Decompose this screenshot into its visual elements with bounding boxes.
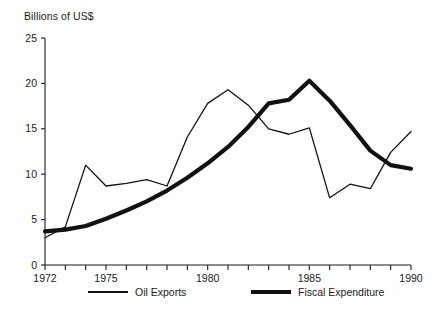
legend-swatch-oil-exports-icon <box>88 291 128 292</box>
svg-text:1990: 1990 <box>399 272 423 284</box>
legend-label-fiscal-expenditure: Fiscal Expenditure <box>298 286 384 298</box>
svg-text:1972: 1972 <box>33 272 57 284</box>
svg-text:1975: 1975 <box>94 272 118 284</box>
legend-swatch-fiscal-expenditure-icon <box>251 290 291 294</box>
line-chart-plot: 0510152025 19721975198019851990 <box>0 0 438 315</box>
legend-item-oil-exports: Oil Exports <box>88 286 186 298</box>
chart-legend: Oil Exports Fiscal Expenditure <box>0 286 438 306</box>
legend-label-oil-exports: Oil Exports <box>135 286 186 298</box>
svg-text:25: 25 <box>25 32 37 44</box>
svg-text:20: 20 <box>25 77 37 89</box>
series-line-fiscal-expenditure <box>45 81 411 232</box>
svg-text:1980: 1980 <box>196 272 220 284</box>
y-axis: 0510152025 <box>25 32 45 271</box>
legend-item-fiscal-expenditure: Fiscal Expenditure <box>251 286 384 298</box>
svg-text:15: 15 <box>25 122 37 134</box>
chart-container: Billions of US$ 0510152025 1972197519801… <box>0 0 438 315</box>
svg-text:1985: 1985 <box>298 272 322 284</box>
svg-text:10: 10 <box>25 168 37 180</box>
svg-text:5: 5 <box>31 213 37 225</box>
series-lines <box>45 81 411 238</box>
series-line-oil-exports <box>45 90 411 238</box>
svg-text:0: 0 <box>31 259 37 271</box>
x-axis: 19721975198019851990 <box>33 265 423 284</box>
